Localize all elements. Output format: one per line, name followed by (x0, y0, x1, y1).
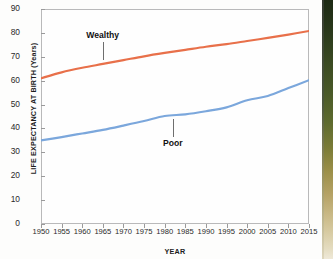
x-tick-mark (123, 224, 124, 228)
x-tick-mark (288, 224, 289, 228)
x-tick-label: 2015 (294, 228, 324, 236)
y-tick-label: 30 (0, 147, 20, 155)
annotation-leader-line (103, 42, 104, 60)
x-tick-mark (268, 224, 269, 228)
page-edge-strip (324, 0, 333, 259)
y-tick-label: 50 (0, 100, 20, 108)
y-tick-label: 80 (0, 28, 20, 36)
y-tick-label: 0 (0, 219, 20, 227)
annotation-leader-line (173, 119, 174, 137)
x-tick-mark (82, 224, 83, 228)
x-tick-mark (185, 224, 186, 228)
x-tick-mark (144, 224, 145, 228)
y-tick-label: 10 (0, 195, 20, 203)
y-tick-label: 90 (0, 4, 20, 12)
x-tick-mark (227, 224, 228, 228)
x-tick-mark (309, 224, 310, 228)
series-label-wealthy: Wealthy (86, 31, 119, 40)
series-lines (41, 9, 309, 224)
y-tick-label: 70 (0, 52, 20, 60)
x-tick-mark (103, 224, 104, 228)
series-label-poor: Poor (163, 139, 183, 148)
x-tick-mark (62, 224, 63, 228)
x-tick-mark (247, 224, 248, 228)
y-tick-label: 40 (0, 123, 20, 131)
x-tick-mark (41, 224, 42, 228)
x-tick-mark (165, 224, 166, 228)
x-axis-title: YEAR (40, 247, 310, 256)
y-axis-title: LIFE EXPECTANCY AT BIRTH (Years) (29, 9, 38, 209)
y-tick-label: 60 (0, 76, 20, 84)
x-tick-mark (206, 224, 207, 228)
line-wealthy (41, 31, 309, 78)
chart-figure: LIFE EXPECTANCY AT BIRTH (Years) YEAR 01… (0, 0, 333, 259)
line-poor (41, 80, 309, 140)
y-tick-label: 20 (0, 171, 20, 179)
